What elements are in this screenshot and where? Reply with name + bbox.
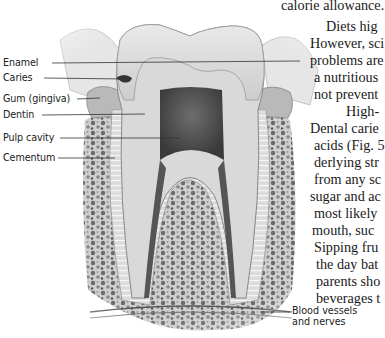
text-line: from any sc: [314, 171, 381, 188]
text-line: problems are: [310, 52, 384, 69]
text-line: most likely: [314, 205, 377, 222]
label-blood-vessels: Blood vessels and nerves: [292, 305, 357, 327]
label-caries: Caries: [3, 72, 33, 83]
text-line: acids (Fig. 5: [314, 137, 385, 154]
text-line: Diets hig: [326, 18, 378, 35]
text-line: Dental carie: [310, 120, 379, 137]
label-pulp-cavity: Pulp cavity: [3, 132, 54, 143]
text-line: a nutritious: [314, 69, 378, 86]
label-dentin: Dentin: [3, 109, 34, 120]
text-line: derlying str: [314, 154, 379, 171]
text-line: the day bat: [316, 256, 378, 273]
text-line: parents sho: [316, 273, 380, 290]
text-line: sugar and ac: [310, 188, 381, 205]
text-line: not prevent: [314, 86, 378, 103]
label-enamel: Enamel: [3, 57, 38, 68]
text-line: However, sci: [310, 35, 384, 52]
text-line: calorie allowance.: [281, 0, 384, 14]
text-line: mouth, suc: [312, 222, 374, 239]
label-cementum: Cementum: [3, 152, 55, 163]
label-gum: Gum (gingiva): [3, 93, 70, 104]
text-line: beverages t: [316, 290, 380, 307]
text-line: Sipping fru: [314, 239, 378, 256]
label-blood-vessels-line2: and nerves: [292, 316, 357, 327]
text-line: High-: [346, 103, 379, 120]
